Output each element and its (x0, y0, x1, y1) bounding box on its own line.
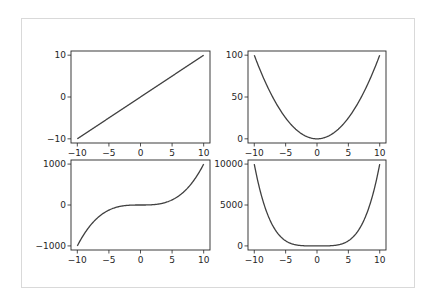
data-line (77, 164, 203, 246)
data-line (77, 55, 203, 139)
subplot-quadratic: −10−50510050100 (226, 50, 386, 158)
x-tick-label: 0 (314, 255, 320, 265)
axes-box (248, 160, 386, 250)
y-tick-label: −1000 (36, 241, 67, 251)
x-tick-label: −5 (102, 148, 115, 158)
subplot-cubic: −10−50510−100001000 (36, 159, 210, 265)
x-tick-label: 5 (345, 148, 351, 158)
x-tick-label: 10 (198, 148, 210, 158)
x-tick-label: −10 (68, 148, 87, 158)
subplot-linear: −10−50510−10010 (47, 50, 210, 158)
subplot-quartic: −10−505100500010000 (214, 159, 386, 265)
y-tick-label: 0 (237, 134, 243, 144)
axes-box (248, 51, 386, 143)
y-tick-label: 100 (226, 50, 243, 60)
x-tick-label: 0 (138, 148, 144, 158)
x-tick-label: 5 (169, 255, 175, 265)
y-tick-label: 50 (232, 92, 244, 102)
y-tick-label: 10 (55, 50, 67, 60)
x-tick-label: 0 (314, 148, 320, 158)
y-tick-label: 10000 (214, 159, 243, 169)
x-tick-label: −5 (102, 255, 115, 265)
data-line (254, 55, 379, 139)
x-tick-label: 10 (374, 148, 386, 158)
x-tick-label: −10 (245, 148, 264, 158)
y-tick-label: 0 (60, 92, 66, 102)
y-tick-label: 5000 (220, 200, 243, 210)
y-tick-label: 0 (237, 241, 243, 251)
x-tick-label: 10 (198, 255, 210, 265)
y-tick-label: 0 (60, 200, 66, 210)
y-tick-label: 1000 (43, 159, 66, 169)
x-tick-label: 0 (138, 255, 144, 265)
x-tick-label: −5 (279, 148, 292, 158)
y-tick-label: −10 (47, 134, 66, 144)
x-tick-label: 5 (345, 255, 351, 265)
subplot-grid: −10−50510−10010 −10−50510050100 −10−5051… (0, 0, 439, 308)
x-tick-label: −5 (279, 255, 292, 265)
x-tick-label: 10 (374, 255, 386, 265)
data-line (254, 164, 379, 246)
x-tick-label: −10 (245, 255, 264, 265)
x-tick-label: 5 (169, 148, 175, 158)
x-tick-label: −10 (68, 255, 87, 265)
